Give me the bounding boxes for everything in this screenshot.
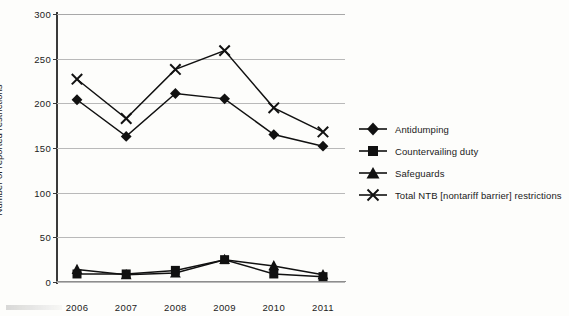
x-axis-tick-label: 2009	[213, 302, 236, 313]
plot-area: 050100150200250300 200620072008200920102…	[57, 14, 345, 282]
diamond-marker-icon	[358, 121, 388, 137]
legend-item-countervailing-duty: Countervailing duty	[358, 140, 566, 162]
data-point-marker	[318, 141, 329, 152]
data-point-marker	[72, 94, 83, 105]
data-point-marker	[219, 93, 230, 104]
x-axis-tick-label: 2010	[262, 302, 285, 313]
data-point-marker	[268, 129, 279, 140]
x-axis-tick-label: 2007	[115, 302, 138, 313]
series-line	[77, 94, 323, 147]
y-axis-tick-mark	[53, 282, 57, 283]
data-point-marker	[170, 64, 180, 74]
square-marker-icon	[358, 143, 388, 159]
legend-label: Safeguards	[395, 168, 445, 179]
data-point-marker	[219, 45, 229, 55]
data-point-marker	[269, 269, 278, 278]
triangle-marker-icon	[358, 165, 388, 181]
legend-label: Countervailing duty	[395, 146, 478, 157]
legend-item-safeguards: Safeguards	[358, 162, 566, 184]
legend-label: Total NTB [nontariff barrier] restrictio…	[395, 190, 562, 201]
y-axis-tick-label: 0	[45, 277, 51, 288]
data-point-marker	[72, 74, 82, 84]
series-layer	[57, 14, 345, 282]
x-axis-tick-label: 2006	[66, 302, 89, 313]
y-axis-title: Number of reported restrictions	[0, 85, 4, 216]
data-point-marker	[72, 264, 83, 274]
data-series	[72, 88, 329, 152]
y-axis-tick-label: 50	[40, 232, 51, 243]
series-line	[77, 260, 323, 275]
legend-item-antidumping: Antidumping	[358, 118, 566, 140]
gridline	[57, 282, 345, 283]
y-axis-tick-label: 250	[34, 53, 51, 64]
x-axis-tick-label: 2011	[312, 302, 334, 313]
legend-item-total-ntb: Total NTB [nontariff barrier] restrictio…	[358, 184, 566, 206]
x-marker-icon	[358, 187, 388, 203]
y-axis-tick-label: 150	[34, 143, 51, 154]
y-axis-tick-label: 200	[34, 98, 51, 109]
series-line	[77, 51, 323, 132]
scan-artifact	[6, 305, 62, 310]
chart-legend: Antidumping Countervailing duty Safeguar…	[358, 118, 566, 206]
y-axis-tick-label: 100	[34, 187, 51, 198]
data-point-marker	[269, 103, 279, 113]
data-point-marker	[318, 127, 328, 137]
x-axis-tick-label: 2008	[164, 302, 187, 313]
y-axis-tick-label: 300	[34, 9, 51, 20]
data-series	[72, 45, 328, 137]
legend-label: Antidumping	[395, 124, 449, 135]
data-point-marker	[121, 113, 131, 123]
line-chart-figure: Number of reported restrictions 05010015…	[0, 0, 569, 316]
